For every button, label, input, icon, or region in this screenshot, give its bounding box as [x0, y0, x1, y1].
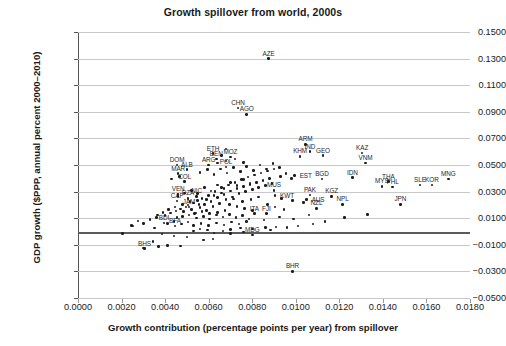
data-point	[155, 216, 158, 219]
x-tick-mark	[165, 299, 166, 303]
data-point-label: AZE	[262, 50, 274, 57]
x-tick-mark	[209, 299, 210, 303]
data-point	[216, 211, 219, 214]
data-point-label: ARM	[299, 135, 313, 142]
data-point	[268, 177, 271, 180]
data-point	[274, 194, 277, 197]
data-point	[137, 220, 140, 223]
data-point	[224, 209, 227, 212]
data-point	[179, 208, 182, 211]
data-point	[143, 247, 146, 250]
data-point	[216, 162, 219, 165]
data-point	[243, 207, 246, 210]
data-point	[229, 232, 232, 235]
data-point	[182, 210, 185, 213]
data-point	[297, 225, 300, 228]
data-point-label: KWT	[280, 192, 294, 199]
data-point	[447, 178, 450, 181]
data-point	[293, 174, 296, 177]
page-title: Growth spillover from world, 2000s	[0, 6, 506, 18]
data-point	[218, 202, 221, 205]
data-point	[272, 162, 275, 165]
data-point	[283, 208, 286, 211]
data-point	[225, 166, 228, 169]
data-point	[302, 201, 305, 204]
data-point	[275, 226, 278, 229]
x-tick-label: 0.0180	[440, 302, 500, 312]
data-point	[278, 166, 281, 169]
chart-page: Growth spillover from world, 2000s GDP g…	[0, 0, 506, 346]
data-point	[202, 239, 205, 242]
data-point	[121, 232, 124, 235]
data-point	[208, 218, 211, 221]
data-point	[226, 172, 229, 175]
data-point	[351, 176, 354, 179]
data-point	[223, 224, 226, 227]
data-point	[232, 198, 235, 201]
data-point-label: MAR	[171, 165, 185, 172]
data-point	[245, 113, 248, 116]
data-point	[253, 174, 256, 177]
gridline	[78, 192, 470, 193]
x-tick-mark	[339, 299, 340, 303]
data-point-label: KAZ	[356, 144, 368, 151]
data-point	[230, 221, 233, 224]
data-point	[142, 222, 145, 225]
x-tick-mark	[383, 299, 384, 303]
data-point	[174, 206, 177, 209]
data-point	[181, 215, 184, 218]
data-point-label: BGD	[315, 170, 329, 177]
data-point	[242, 185, 245, 188]
data-point-label: KGZ	[325, 187, 338, 194]
data-point	[431, 184, 434, 187]
gridline	[78, 271, 470, 272]
data-point-label: ARG	[202, 156, 216, 163]
data-point-label: MDG	[245, 226, 260, 233]
data-point	[229, 228, 232, 231]
y-axis-label: GDP growth ($PPP, annual percent 2000–20…	[31, 38, 42, 278]
data-point	[343, 216, 346, 219]
data-point	[225, 198, 228, 201]
data-point	[203, 203, 206, 206]
data-point-label: MOZ	[223, 148, 237, 155]
data-point	[285, 172, 288, 175]
data-point	[257, 186, 260, 189]
data-point-label: JPN	[394, 195, 406, 202]
data-point	[419, 184, 422, 187]
gridline	[78, 245, 470, 246]
data-point-label: BDI	[159, 214, 169, 221]
gridline	[78, 138, 470, 139]
data-point	[239, 170, 242, 173]
data-point	[242, 161, 245, 164]
data-point	[251, 234, 254, 237]
data-point	[265, 212, 268, 215]
data-point	[216, 196, 219, 199]
data-point	[236, 187, 239, 190]
data-point	[236, 205, 239, 208]
data-point	[215, 214, 218, 217]
data-point	[330, 195, 333, 198]
data-point-label: FJI	[262, 205, 271, 212]
data-point	[192, 230, 195, 233]
data-point	[291, 270, 294, 273]
data-point	[163, 222, 166, 225]
data-point	[238, 223, 241, 226]
data-point	[229, 190, 232, 193]
data-point	[229, 181, 232, 184]
data-point	[274, 206, 277, 209]
data-point-label: BHR	[286, 262, 299, 269]
gridline	[78, 59, 470, 60]
data-point	[174, 225, 177, 228]
data-point	[264, 226, 267, 229]
data-point	[228, 203, 231, 206]
data-point-label: JAM	[183, 198, 195, 205]
data-point	[234, 181, 237, 184]
data-point	[245, 165, 248, 168]
data-point	[188, 214, 191, 217]
data-point	[238, 192, 241, 195]
x-tick-mark	[252, 299, 253, 303]
data-point	[250, 198, 253, 201]
data-point-label: AGO	[240, 105, 254, 112]
gridline	[78, 165, 470, 166]
gridline	[78, 85, 470, 86]
